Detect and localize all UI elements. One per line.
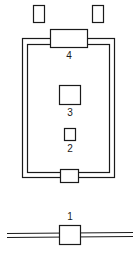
component-4-label: 4 (66, 50, 72, 61)
component-1-label: 1 (67, 211, 73, 222)
top-right-rect (93, 6, 104, 23)
component-2-box (65, 129, 76, 141)
component-2-label: 2 (67, 143, 73, 154)
component-4-box (51, 30, 88, 48)
bottom-connector-box (61, 170, 79, 183)
component-3-box (60, 86, 81, 105)
top-left-rect (34, 6, 45, 23)
diagram-canvas: 4 3 2 1 (0, 0, 139, 253)
component-1-box (60, 226, 81, 245)
component-3-label: 3 (67, 107, 73, 118)
